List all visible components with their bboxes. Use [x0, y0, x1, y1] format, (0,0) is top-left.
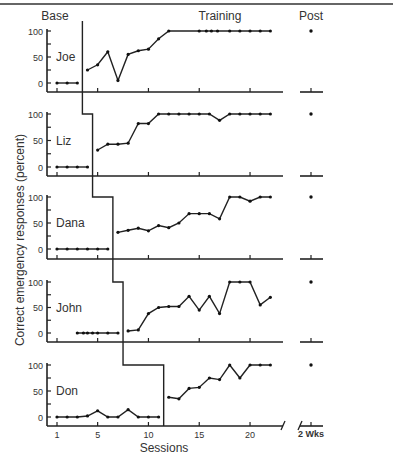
post-data-point	[309, 280, 312, 283]
training-line	[128, 282, 270, 331]
y-tick-label: 100	[28, 27, 43, 37]
data-point	[198, 112, 201, 115]
data-point	[187, 212, 190, 215]
participant-label: Joe	[56, 50, 76, 64]
data-point	[157, 224, 160, 227]
training-line	[88, 31, 271, 80]
data-point	[147, 415, 150, 418]
phase-change-line	[82, 21, 163, 426]
phase-label-training: Training	[199, 9, 242, 23]
data-point	[228, 29, 231, 32]
data-point	[66, 81, 69, 84]
data-point	[116, 231, 119, 234]
data-point	[259, 363, 262, 366]
data-point	[238, 112, 241, 115]
phase-label-post: Post	[299, 9, 324, 23]
post-data-point	[309, 29, 312, 32]
data-point	[137, 227, 140, 230]
data-point	[157, 415, 160, 418]
y-tick-label: 100	[28, 278, 43, 288]
data-point	[248, 363, 251, 366]
data-point	[167, 396, 170, 399]
data-point	[76, 247, 79, 250]
data-point	[116, 79, 119, 82]
panel-john: 050100John	[28, 278, 323, 343]
data-point	[177, 221, 180, 224]
y-tick-label: 0	[38, 245, 43, 255]
x-axis-tick-labels: 15101520	[54, 430, 255, 440]
x-tick-label: 1	[54, 430, 59, 440]
y-tick-label: 50	[33, 136, 43, 146]
data-point	[259, 303, 262, 306]
data-point	[269, 112, 272, 115]
data-point	[177, 305, 180, 308]
data-point	[76, 331, 79, 334]
data-point	[137, 328, 140, 331]
y-tick-label: 0	[38, 79, 43, 89]
data-point	[216, 29, 219, 32]
data-point	[96, 247, 99, 250]
training-line	[169, 365, 271, 399]
y-tick-label: 50	[33, 219, 43, 229]
data-point	[147, 48, 150, 51]
y-tick-label: 100	[28, 110, 43, 120]
data-point	[127, 142, 130, 145]
data-point	[127, 229, 130, 232]
data-point	[187, 112, 190, 115]
data-point	[248, 280, 251, 283]
panels: 050100Joe050100Liz050100Dana050100John05…	[28, 21, 323, 430]
data-point	[238, 29, 241, 32]
data-point	[228, 280, 231, 283]
panel-dana: 050100Dana	[28, 193, 323, 260]
data-point	[66, 247, 69, 250]
data-point	[116, 331, 119, 334]
data-point	[137, 122, 140, 125]
data-point	[96, 63, 99, 66]
data-point	[91, 331, 94, 334]
data-point	[127, 53, 130, 56]
data-point	[269, 363, 272, 366]
data-point	[106, 415, 109, 418]
data-point	[208, 112, 211, 115]
data-point	[157, 306, 160, 309]
multiple-baseline-chart: Base Training Post Correct emergency res…	[0, 0, 393, 458]
post-data-point	[309, 195, 312, 198]
data-point	[187, 387, 190, 390]
data-point	[116, 415, 119, 418]
data-point	[218, 378, 221, 381]
data-point	[259, 29, 262, 32]
data-point	[106, 143, 109, 146]
data-point	[167, 305, 170, 308]
data-point	[198, 212, 201, 215]
data-point	[66, 415, 69, 418]
data-point	[137, 49, 140, 52]
data-point	[147, 229, 150, 232]
data-point	[147, 312, 150, 315]
data-point	[248, 200, 251, 203]
y-tick-label: 100	[28, 361, 43, 371]
x-tick-label: 15	[194, 430, 204, 440]
data-point	[210, 29, 213, 32]
panel-joe: 050100Joe	[28, 27, 323, 93]
data-point	[269, 29, 272, 32]
data-point	[248, 29, 251, 32]
data-point	[157, 112, 160, 115]
data-point	[127, 329, 130, 332]
data-point	[167, 112, 170, 115]
x-tick-label: 20	[245, 430, 255, 440]
data-point	[177, 112, 180, 115]
training-line	[118, 197, 270, 232]
data-point	[106, 247, 109, 250]
data-point	[66, 165, 69, 168]
data-point	[218, 217, 221, 220]
data-point	[55, 415, 58, 418]
data-point	[208, 376, 211, 379]
data-point	[82, 331, 85, 334]
data-point	[238, 195, 241, 198]
x-tick-label: 10	[143, 430, 153, 440]
data-point	[96, 148, 99, 151]
data-point	[147, 122, 150, 125]
x-tick-label: 5	[95, 430, 100, 440]
post-tick-label: 2 Wks	[298, 429, 324, 439]
data-point	[269, 296, 272, 299]
